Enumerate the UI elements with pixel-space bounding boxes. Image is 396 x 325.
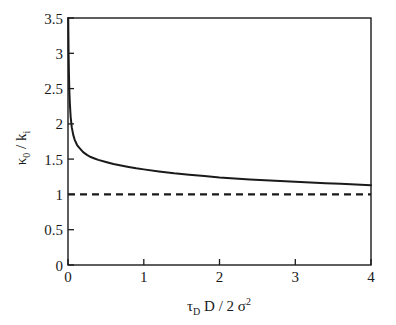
x-tick-labels: 0 1 2 3 4 xyxy=(64,269,375,285)
x-axis-tau-subscript: D xyxy=(193,306,200,317)
y-tick-label: 2 xyxy=(56,116,64,132)
y-tick-label: 1 xyxy=(56,187,64,203)
x-tick-label: 3 xyxy=(292,269,300,285)
y-tick-label: 2.5 xyxy=(44,81,63,97)
x-tick-label: 4 xyxy=(367,269,375,285)
y-axis-title: κ0 / ki xyxy=(13,131,32,166)
x-axis-two: 2 xyxy=(227,298,235,314)
y-tick-label: 1.5 xyxy=(44,152,63,168)
x-axis-sigma-superscript: 2 xyxy=(246,296,251,307)
y-tick-label: 0 xyxy=(56,258,64,274)
plot-svg: 0 0.5 1 1.5 2 2.5 3 3.5 0 1 2 3 4 κ0 / k… xyxy=(0,0,396,325)
x-tick-label: 1 xyxy=(140,269,148,285)
y-tick-labels: 0 0.5 1 1.5 2 2.5 3 3.5 xyxy=(44,11,63,274)
plot-frame xyxy=(68,18,371,265)
svg-text:κ0 / ki: κ0 / ki xyxy=(13,131,32,166)
x-tick-label: 2 xyxy=(216,269,224,285)
svg-text:τD D / 2 σ2: τD D / 2 σ2 xyxy=(187,296,251,317)
y-tick-label: 3.5 xyxy=(44,11,63,27)
y-tick-label: 3 xyxy=(56,46,64,62)
y-axis-k-subscript: i xyxy=(21,131,32,134)
x-axis-sigma: σ xyxy=(238,298,246,314)
x-tick-label: 0 xyxy=(64,269,72,285)
chart-figure: 0 0.5 1 1.5 2 2.5 3 3.5 0 1 2 3 4 κ0 / k… xyxy=(0,0,396,325)
x-axis-d: D xyxy=(204,298,215,314)
x-axis-title: τD D / 2 σ2 xyxy=(187,296,251,317)
y-tick-label: 0.5 xyxy=(44,222,63,238)
